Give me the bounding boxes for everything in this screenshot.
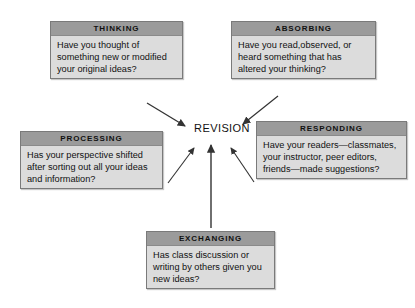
- node-absorbing: ABSORBING Have you read,observed, or hea…: [231, 21, 376, 79]
- node-responding-title: RESPONDING: [257, 122, 406, 136]
- node-thinking-body: Have you thought of something new or mod…: [51, 36, 182, 78]
- node-responding-text: Have your readers—classmates, your instr…: [263, 139, 401, 175]
- node-responding-body: Have your readers—classmates, your instr…: [257, 136, 406, 178]
- center-label: REVISION: [176, 122, 268, 134]
- node-thinking-title: THINKING: [51, 22, 182, 36]
- node-absorbing-title: ABSORBING: [232, 22, 375, 36]
- node-responding: RESPONDING Have your readers—classmates,…: [256, 121, 407, 179]
- node-exchanging-text: Has class discussion or writing by other…: [153, 249, 269, 285]
- node-thinking: THINKING Have you thought of something n…: [50, 21, 183, 79]
- node-exchanging-title: EXCHANGING: [147, 232, 274, 246]
- revision-diagram: THINKING Have you thought of something n…: [0, 0, 415, 308]
- node-processing: PROCESSING Has your perspective shifted …: [20, 131, 163, 189]
- node-absorbing-text: Have you read,observed, or heard somethi…: [238, 39, 370, 75]
- node-processing-title: PROCESSING: [21, 132, 162, 146]
- node-thinking-text: Have you thought of something new or mod…: [57, 39, 177, 75]
- node-processing-body: Has your perspective shifted after sorti…: [21, 146, 162, 188]
- node-exchanging: EXCHANGING Has class discussion or writi…: [146, 231, 275, 289]
- arrow-responding-to-revision: [231, 148, 254, 182]
- node-exchanging-body: Has class discussion or writing by other…: [147, 246, 274, 288]
- node-absorbing-body: Have you read,observed, or heard somethi…: [232, 36, 375, 78]
- node-processing-text: Has your perspective shifted after sorti…: [27, 149, 157, 185]
- arrow-processing-to-revision: [168, 148, 194, 183]
- arrow-absorbing-to-revision: [243, 96, 278, 124]
